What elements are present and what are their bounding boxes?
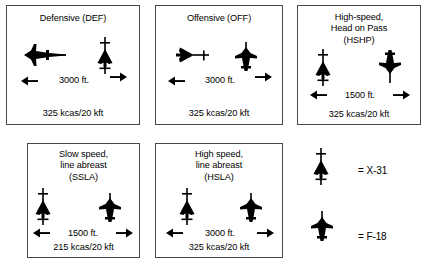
panel-title: High-speed, Head on Pass (HSHP) xyxy=(298,12,420,46)
f18-aircraft-icon xyxy=(96,193,124,225)
x31-aircraft-icon xyxy=(174,188,200,228)
distance-indicator: 3000 ft. xyxy=(168,73,272,87)
distance-indicator: 1500 ft. xyxy=(310,88,410,102)
arrow-right-icon xyxy=(110,71,127,85)
distance-indicator: 1500 ft. xyxy=(33,226,133,240)
x31-aircraft-icon xyxy=(308,148,334,188)
legend-label-f18: = F-18 xyxy=(358,231,387,243)
x31-aircraft-icon xyxy=(166,43,211,67)
arrow-right-icon xyxy=(116,227,133,241)
panel-title: Slow speed, line abreast (SSLA) xyxy=(28,149,139,183)
panel-hshp: High-speed, Head on Pass (HSHP) xyxy=(297,5,421,125)
panel-defensive: Defensive (DEF) xyxy=(6,5,140,125)
distance-indicator: 3000 ft. xyxy=(21,73,127,87)
panel-hsla: High speed, line abreast (HSLA) xyxy=(155,143,283,258)
panel-footer: 325 kcas/20 kft xyxy=(7,108,139,119)
f18-aircraft-icon xyxy=(308,211,336,245)
panel-title: High speed, line abreast (HSLA) xyxy=(156,149,282,183)
f18-aircraft-icon xyxy=(376,45,404,83)
f18-aircraft-icon xyxy=(237,193,265,225)
legend-item-x31 xyxy=(308,148,334,188)
panel-title: Offensive (OFF) xyxy=(156,13,282,24)
panel-footer: 215 kcas/20 kft xyxy=(28,242,139,253)
legend: = X-31 = F-18 xyxy=(300,148,420,253)
f18-aircraft-icon xyxy=(22,42,68,68)
panel-offensive: Offensive (OFF) xyxy=(155,5,283,125)
arrow-right-icon xyxy=(255,71,272,85)
panel-ssla: Slow speed, line abreast (SSLA) xyxy=(27,143,140,258)
f18-aircraft-icon xyxy=(232,42,260,74)
panel-footer: 325 kcas/20 kft xyxy=(298,109,420,120)
arrow-right-icon xyxy=(393,89,410,103)
distance-indicator: 3000 ft. xyxy=(166,226,274,240)
legend-label-x31: = X-31 xyxy=(358,165,387,177)
panel-footer: 325 kcas/20 kft xyxy=(156,108,282,119)
panel-footer: 325 kcas/20 kft xyxy=(156,242,282,253)
aircraft-setup-figure: Defensive (DEF) xyxy=(0,0,426,261)
arrow-right-icon xyxy=(257,227,274,241)
x31-aircraft-icon xyxy=(310,49,336,89)
x31-aircraft-icon xyxy=(30,188,56,228)
panel-title: Defensive (DEF) xyxy=(7,13,139,24)
legend-item-f18 xyxy=(308,211,336,245)
